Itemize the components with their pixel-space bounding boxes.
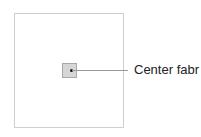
callout-label: Center fabr <box>134 62 199 78</box>
callout-leader-line <box>72 70 128 71</box>
